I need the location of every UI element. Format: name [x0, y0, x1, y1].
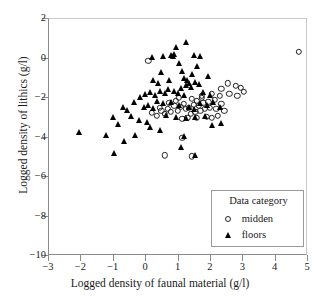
data-point-floors [149, 54, 155, 60]
legend: Data category midden floors [211, 190, 304, 247]
data-point-floors [154, 98, 160, 104]
data-point-floors [121, 138, 127, 144]
x-tick-label: 2 [195, 262, 225, 273]
x-tick-label: 4 [260, 262, 290, 273]
legend-title: Data category [212, 195, 305, 206]
open-circle-icon [221, 213, 235, 224]
x-tick-label: 5 [292, 262, 320, 273]
data-point-floors [200, 89, 206, 95]
data-point-floors [166, 77, 172, 83]
data-point-floors [131, 99, 137, 105]
x-tick-label: −2 [65, 262, 95, 273]
data-point-floors [194, 63, 200, 69]
y-tick-label: 2 [6, 13, 46, 24]
data-point-floors [132, 132, 138, 138]
data-point-floors [137, 94, 143, 100]
data-point-floors [176, 102, 182, 108]
data-point-floors [163, 112, 169, 118]
data-point-floors [103, 132, 109, 138]
filled-triangle-icon [221, 229, 235, 240]
data-point-floors [183, 115, 189, 121]
data-point-floors [111, 150, 117, 156]
data-point-floors [192, 114, 198, 120]
y-axis-title: Logged density of lithics (g/l) [17, 25, 29, 225]
x-tick-label: 3 [227, 262, 257, 273]
data-point-floors [171, 51, 177, 57]
data-point-floors [205, 73, 211, 79]
data-point-floors [209, 122, 215, 128]
scatter-chart: 20−2−4−6−8−10 −3−2−1012345 Logged densit… [0, 0, 320, 304]
x-axis-title: Logged density of faunal material (g/l) [0, 277, 320, 289]
data-point-floors [183, 39, 189, 45]
data-point-floors [76, 129, 82, 135]
data-point-floors [136, 117, 142, 123]
data-point-floors [168, 99, 174, 105]
data-point-floors [120, 104, 126, 110]
data-point-floors [181, 92, 187, 98]
data-point-floors [202, 113, 208, 119]
data-point-floors [217, 104, 223, 110]
data-point-floors [157, 127, 163, 133]
data-point-floors [158, 69, 164, 75]
data-point-floors [175, 90, 181, 96]
legend-item-midden: midden [221, 212, 273, 224]
x-tick-label: 1 [163, 262, 193, 273]
data-point-floors [110, 114, 116, 120]
data-point-floors [178, 144, 184, 150]
data-point-floors [179, 68, 185, 74]
data-point-floors [191, 106, 197, 112]
legend-label-floors: floors [242, 229, 267, 240]
data-point-floors [210, 99, 216, 105]
data-point-floors [204, 102, 210, 108]
legend-item-floors: floors [221, 228, 266, 240]
data-point-floors [197, 53, 203, 59]
data-point-floors [176, 60, 182, 66]
y-tick-label: −10 [6, 250, 46, 261]
data-point-floors [196, 81, 202, 87]
data-point-floors [192, 152, 198, 158]
x-tick-label: 0 [130, 262, 160, 273]
data-point-floors [160, 100, 166, 106]
data-point-floors [191, 52, 197, 58]
data-point-floors [173, 44, 179, 50]
data-point-floors [115, 121, 121, 127]
legend-label-midden: midden [242, 213, 274, 224]
data-point-floors [128, 113, 134, 119]
data-point-floors [197, 100, 203, 106]
x-tick-label: −3 [33, 262, 63, 273]
data-point-floors [173, 114, 179, 120]
data-point-floors [207, 92, 213, 98]
data-point-floors [160, 53, 166, 59]
data-point-floors [218, 120, 224, 126]
data-point-floors [141, 104, 147, 110]
data-point-floors [150, 77, 156, 83]
data-point-floors [147, 124, 153, 130]
x-tick-label: −1 [98, 262, 128, 273]
data-point-floors [150, 105, 156, 111]
data-point-floors [181, 133, 187, 139]
